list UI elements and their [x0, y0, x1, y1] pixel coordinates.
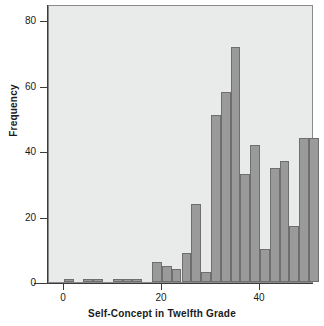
histogram-bar: [289, 226, 299, 282]
histogram-bar: [182, 253, 192, 282]
plot-frame: [48, 5, 313, 283]
y-tick-label: 60: [0, 82, 36, 92]
histogram-bar: [231, 47, 241, 282]
x-tick-mark: [63, 284, 64, 290]
plot-area: [49, 6, 312, 282]
y-tick-mark: [40, 152, 47, 153]
histogram-bar: [123, 279, 133, 282]
histogram-bar: [270, 168, 280, 282]
y-tick-label: 80: [0, 16, 36, 26]
y-axis-line: [47, 5, 48, 284]
y-tick-mark: [40, 218, 47, 219]
x-axis-line: [34, 283, 313, 284]
y-axis-title: Frequency: [8, 66, 19, 156]
y-tick-mark: [40, 283, 47, 284]
x-tick-label: 20: [141, 292, 181, 303]
histogram-bar: [299, 138, 309, 282]
y-tick-label: 20: [0, 213, 36, 223]
x-tick-label: 0: [43, 292, 83, 303]
histogram-bar: [83, 279, 93, 282]
y-tick-label: 40: [0, 147, 36, 157]
histogram-bar: [201, 272, 211, 282]
histogram-bar: [221, 92, 231, 282]
histogram-bar: [260, 249, 270, 282]
x-tick-mark: [259, 284, 260, 290]
histogram-figure: Frequency 020406080 02040 Self-Concept i…: [0, 0, 324, 326]
histogram-bar: [93, 279, 103, 282]
histogram-bar: [309, 138, 319, 282]
histogram-bar: [172, 269, 182, 282]
histogram-bar: [191, 204, 201, 282]
histogram-bar: [113, 279, 123, 282]
histogram-bar: [211, 115, 221, 282]
x-tick-label: 40: [239, 292, 279, 303]
histogram-bar: [132, 279, 142, 282]
x-axis-title: Self-Concept in Twelfth Grade: [0, 308, 324, 319]
histogram-bar: [64, 279, 74, 282]
histogram-bar: [162, 266, 172, 282]
histogram-bar: [240, 174, 250, 282]
y-tick-mark: [40, 87, 47, 88]
histogram-bar: [250, 145, 260, 282]
y-tick-label: 0: [0, 278, 36, 288]
histogram-bar: [280, 161, 290, 282]
x-tick-mark: [161, 284, 162, 290]
y-tick-mark: [40, 21, 47, 22]
histogram-bar: [152, 262, 162, 282]
